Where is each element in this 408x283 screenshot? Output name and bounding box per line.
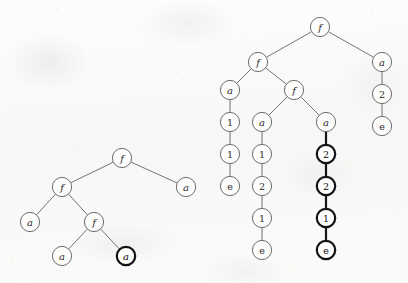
tree-node[interactable]: e [372, 116, 391, 135]
tree-node[interactable]: 1 [220, 112, 239, 131]
tree-edge [69, 230, 87, 249]
tree-node[interactable]: 2 [317, 145, 335, 163]
tree-edge [266, 68, 286, 83]
tree-node-label: a [379, 57, 385, 68]
tree-node-label: a [59, 251, 65, 262]
tree-node-label: a [27, 217, 33, 228]
tree-node-label: 1 [227, 149, 233, 160]
tree-node[interactable]: f [52, 177, 71, 196]
tree-node-label: e [379, 121, 385, 132]
tree-edge [267, 32, 311, 57]
tree-node[interactable]: a [52, 246, 71, 265]
tree-node-label: 2 [323, 181, 329, 192]
tree-node[interactable]: e [220, 176, 239, 195]
tree-node[interactable]: f [84, 212, 103, 231]
tree-node[interactable]: 2 [372, 84, 391, 103]
tree-node[interactable]: e [252, 240, 271, 259]
tree-node[interactable]: f [310, 17, 329, 36]
tree-node-label: 2 [379, 89, 385, 100]
tree-node[interactable]: 1 [252, 208, 271, 227]
tree-node-label: a [323, 117, 329, 128]
tree-node-label: e [259, 245, 265, 256]
tree-edge [329, 32, 373, 57]
tree-edge [37, 195, 55, 215]
tree-node[interactable]: a [117, 247, 135, 265]
tree-node[interactable]: f [284, 80, 303, 99]
tree-node-label: e [323, 245, 329, 256]
tree-node-label: 2 [323, 149, 329, 160]
tree-node[interactable]: f [248, 52, 267, 71]
tree-node-label: e [227, 181, 233, 192]
tree-edge [237, 69, 250, 82]
tree-edge [71, 163, 112, 183]
tree-node-label: 1 [323, 213, 329, 224]
tree-node-label: a [123, 251, 129, 262]
tree-node-label: a [183, 182, 189, 193]
tree-node[interactable]: a [176, 177, 195, 196]
tree-edge [101, 230, 119, 249]
tree-node[interactable]: a [252, 112, 271, 131]
tree-node-label: 2 [259, 181, 265, 192]
figure-root: ffaafaaffa2eaf11ea121ea221e [0, 0, 408, 283]
tree-node-label: a [227, 85, 233, 96]
tree-node-label: a [259, 117, 265, 128]
tree-edge [131, 162, 176, 182]
tree-edge [301, 97, 318, 114]
tree-node-label: 1 [259, 213, 265, 224]
tree-node[interactable]: a [316, 112, 335, 131]
tree-diagram-canvas: ffaafaaffa2eaf11ea121ea221e [0, 0, 408, 283]
tree-node[interactable]: f [112, 148, 131, 167]
tree-node[interactable]: a [220, 80, 239, 99]
tree-node[interactable]: a [372, 52, 391, 71]
tree-node[interactable]: a [20, 212, 39, 231]
tree-edge [69, 195, 87, 215]
tree-node-label: 1 [259, 149, 265, 160]
tree-node[interactable]: 2 [317, 177, 335, 195]
tree-node[interactable]: 1 [252, 144, 271, 163]
tree-node[interactable]: e [317, 241, 335, 259]
tree-node[interactable]: 1 [317, 209, 335, 227]
tree-edge [269, 97, 286, 114]
nodes-layer: ffaafaaffa2eaf11ea121ea221e [20, 17, 391, 265]
tree-node[interactable]: 2 [252, 176, 271, 195]
tree-node[interactable]: 1 [220, 144, 239, 163]
tree-node-label: 1 [227, 117, 233, 128]
